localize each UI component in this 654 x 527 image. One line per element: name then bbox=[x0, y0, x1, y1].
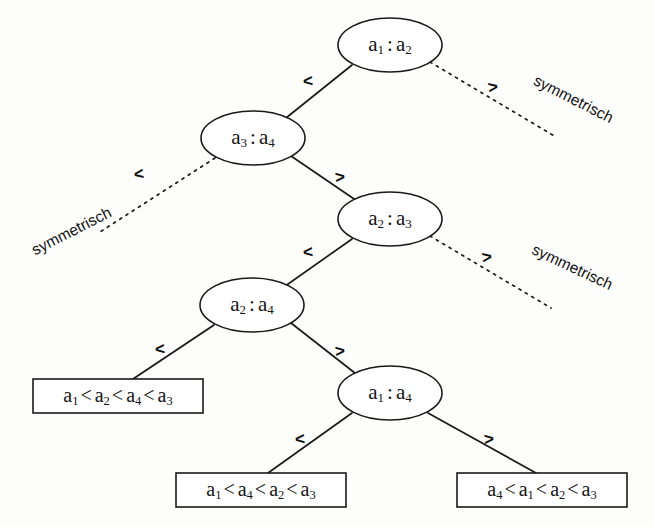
node-a3-a4[interactable]: a3:a4 bbox=[201, 111, 305, 165]
edge-n4-left bbox=[133, 325, 214, 379]
edge-n5-left bbox=[268, 413, 352, 473]
node-a1-a4[interactable]: a1:a4 bbox=[338, 366, 442, 420]
edge-n2-left-dashed bbox=[100, 158, 215, 232]
node-a1-a2[interactable]: a1:a2 bbox=[338, 18, 442, 72]
edge-label-greater-n3: > bbox=[481, 247, 494, 267]
edge-label-less-n5: < bbox=[294, 429, 306, 449]
edge-label-less-n3: < bbox=[302, 242, 314, 262]
leaf-result-3[interactable]: a4<a1<a2<a3 bbox=[457, 473, 627, 507]
node-label: a1:a2 bbox=[368, 32, 412, 57]
tree-canvas: a1:a2 a3:a4 a2:a3 a2:a4 bbox=[0, 0, 654, 527]
decision-tree-diagram: a1:a2 a3:a4 a2:a3 a2:a4 bbox=[0, 0, 654, 527]
edge-n3-left bbox=[281, 239, 352, 289]
node-a2-a3[interactable]: a2:a3 bbox=[338, 192, 442, 246]
leaf-group: a1<a2<a4<a3 a1<a4<a2<a3 a4<a1<a2<a3 bbox=[33, 379, 627, 507]
edge-label-greater-root: > bbox=[487, 77, 500, 97]
edge-n4-right bbox=[291, 323, 360, 377]
node-a2-a4[interactable]: a2:a4 bbox=[200, 278, 304, 332]
edge-n2-right bbox=[291, 156, 360, 203]
edge-root-left bbox=[281, 65, 352, 122]
edge-label-greater-n5: > bbox=[483, 429, 495, 449]
edge-label-less-root: < bbox=[302, 71, 314, 91]
edge-label-less-n2: < bbox=[133, 164, 146, 184]
annotation-symmetrisch-right-mid: symmetrisch bbox=[530, 241, 616, 293]
edge-n5-right bbox=[428, 413, 536, 473]
edge-label-greater-n4: > bbox=[334, 341, 346, 361]
leaf-result-1[interactable]: a1<a2<a4<a3 bbox=[33, 379, 203, 413]
annotation-symmetrisch-right-top: symmetrisch bbox=[531, 71, 616, 126]
node-label: a2:a3 bbox=[368, 206, 412, 231]
leaf-result-2[interactable]: a1<a4<a2<a3 bbox=[176, 473, 346, 507]
edge-label-less-n4: < bbox=[154, 339, 166, 359]
edge-label-greater-n2: > bbox=[334, 167, 346, 187]
node-group: a1:a2 a3:a4 a2:a3 a2:a4 bbox=[200, 18, 442, 420]
